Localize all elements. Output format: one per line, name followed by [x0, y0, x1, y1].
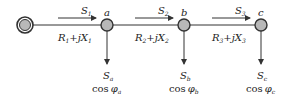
load-s-b: Sb	[180, 70, 191, 82]
load-s-c: Sc	[257, 70, 268, 82]
power-factor-a: cosφa	[92, 83, 122, 95]
source-node	[17, 17, 33, 33]
node-label-a: a	[104, 7, 110, 18]
load-s-a: Sa	[103, 70, 114, 82]
node-b	[178, 19, 190, 31]
node-c	[255, 19, 267, 31]
node-label-b: b	[181, 7, 187, 18]
impedance-label-3: R3+jX3	[211, 32, 246, 44]
node-a	[101, 19, 113, 31]
impedance-label-1: R1+jX1	[57, 32, 92, 44]
node-label-c: c	[258, 7, 264, 18]
flow-label-3: S3	[235, 5, 246, 17]
impedance-label-2: R2+jX2	[134, 32, 169, 44]
radial-network-diagram: S1 S2 S3 R1+jX1 R2+jX2 R3+jX3 a b c Sa S…	[0, 0, 286, 98]
flow-label-1: S1	[81, 5, 92, 17]
flow-label-2: S2	[158, 5, 169, 17]
power-factor-b: cosφb	[169, 83, 199, 95]
power-factor-c: cosφc	[246, 83, 276, 95]
